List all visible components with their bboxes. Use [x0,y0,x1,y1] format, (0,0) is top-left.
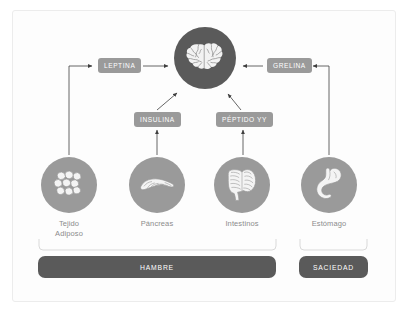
hormone-pill-insulina-label: INSULINA [140,116,175,123]
hormone-pill-leptina[interactable]: LEPTINA [98,58,141,73]
organ-label-adiposo: Tejido Adiposo [41,219,97,238]
organ-circle-adiposo [41,157,97,213]
organ-label-estomago: Estómago [301,219,357,229]
intestines-icon [226,167,258,203]
organ-label-pancreas: Páncreas [129,219,185,229]
organ-label-intestino: Intestinos [214,219,270,229]
hormone-pill-peptido-yy-label: PÉPTIDO YY [222,116,267,123]
brain-node[interactable] [174,27,236,89]
diagram-canvas: LEPTINA GRELINA INSULINA PÉPTIDO YY [0,0,410,313]
organ-node-intestino[interactable]: Intestinos [214,157,270,229]
brain-icon [186,43,224,73]
organ-circle-estomago [301,157,357,213]
hormone-pill-grelina[interactable]: GRELINA [267,58,312,73]
hormone-pill-leptina-label: LEPTINA [104,62,135,69]
pancreas-icon [139,174,175,196]
hormone-pill-peptido-yy[interactable]: PÉPTIDO YY [216,112,273,127]
category-bar-saciedad-label: SACIEDAD [313,264,354,271]
organ-node-estomago[interactable]: Estómago [301,157,357,229]
category-bar-hambre-label: HAMBRE [140,264,174,271]
hormone-pill-insulina[interactable]: INSULINA [134,112,181,127]
category-bar-saciedad[interactable]: SACIEDAD [299,256,368,278]
category-bar-hambre[interactable]: HAMBRE [38,256,276,278]
organ-circle-intestino [214,157,270,213]
fat-cells-icon [52,170,86,200]
organ-circle-pancreas [129,157,185,213]
organ-node-adiposo[interactable]: Tejido Adiposo [41,157,97,238]
organ-node-pancreas[interactable]: Páncreas [129,157,185,229]
stomach-icon [314,167,344,203]
hormone-pill-grelina-label: GRELINA [273,62,306,69]
